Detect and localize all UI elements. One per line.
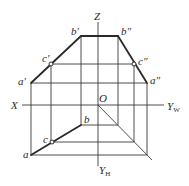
yh-axis-label: YH: [99, 164, 110, 178]
label-a-prime: a′: [18, 75, 27, 87]
label-a-double-prime: a″: [150, 74, 161, 86]
label-c: c: [43, 133, 48, 145]
yw-axis-label: YW: [167, 100, 180, 114]
point-c-side: [132, 62, 136, 66]
point-c-front: [49, 62, 53, 66]
z-axis-label: Z: [94, 10, 101, 22]
diagonal-45-line: [98, 105, 152, 160]
top-view-ab-line: [31, 125, 81, 155]
point-c-top: [50, 140, 54, 144]
label-b-double-prime: b″: [121, 25, 132, 37]
front-view-ab-line: [31, 36, 81, 83]
label-b-prime: b′: [71, 25, 80, 37]
x-axis-label: X: [10, 99, 19, 111]
label-c-prime: c′: [42, 52, 50, 64]
label-c-double-prime: c″: [138, 55, 148, 67]
label-b: b: [84, 113, 90, 125]
projection-diagram: Z X O YW YH b′ c′ a′ b″ c″ a″ b c a: [0, 0, 189, 186]
origin-label: O: [99, 92, 107, 104]
label-a: a: [23, 148, 29, 160]
